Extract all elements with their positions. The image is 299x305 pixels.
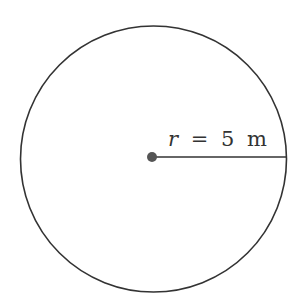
equals-sign: = (191, 127, 209, 151)
center-point (147, 152, 157, 162)
circle-diagram: r = 5 m (0, 0, 299, 305)
radius-label: r = 5 m (168, 127, 267, 151)
radius-unit: m (247, 127, 267, 151)
radius-variable: r (168, 127, 180, 151)
radius-value: 5 (221, 127, 234, 151)
